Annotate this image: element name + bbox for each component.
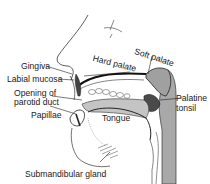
label-papillae: Papillae — [31, 111, 62, 120]
face-profile — [57, 15, 88, 80]
label-tongue: Tongue — [102, 114, 130, 123]
submandibular-gland-shape — [98, 144, 118, 158]
upper-teeth — [89, 89, 131, 99]
label-opening-line2: parotid duct — [14, 98, 59, 107]
soft-palate-shape — [146, 68, 171, 96]
label-palatine-line2: tonsil — [176, 104, 196, 113]
chin — [71, 128, 110, 167]
label-labial-mucosa: Labial mucosa — [7, 75, 62, 84]
label-palatine-line1: Palatine — [176, 94, 207, 103]
label-gingiva: Gingiva — [21, 62, 50, 71]
upper-incisor — [75, 74, 81, 96]
label-submandibular-gland: Submandibular gland — [25, 170, 106, 179]
eye-sketch — [104, 20, 122, 38]
